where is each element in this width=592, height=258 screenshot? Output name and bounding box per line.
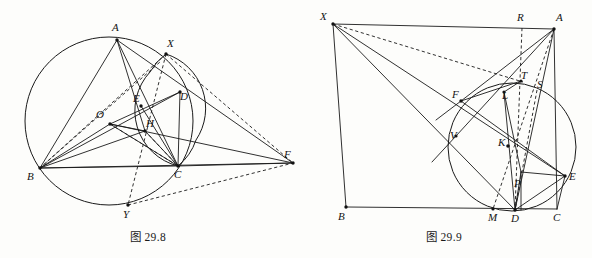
segment-yf-dashed: [128, 163, 293, 205]
vertex-dot-b: [38, 166, 41, 169]
point-label-x: X: [166, 37, 175, 49]
figure-29-8-caption: 图 29.8: [0, 228, 296, 244]
point-label-d: D: [179, 90, 188, 102]
point-label-a: A: [555, 11, 563, 23]
point-label-d: D: [510, 212, 519, 224]
vertex-dot-a: [552, 27, 555, 30]
point-label-y: Y: [123, 208, 131, 220]
vertex-dot-e: [139, 104, 142, 107]
figure-29-9: X R A T S L F V K P E B M D C 图 29.9: [296, 0, 592, 258]
segment-ob: [40, 124, 110, 168]
vertex-dot-b: [344, 205, 347, 208]
segment-am-dashed: [493, 29, 554, 209]
point-label-l: L: [501, 89, 508, 101]
vertex-dot-y: [126, 203, 129, 206]
vertex-dot-o: [108, 122, 111, 125]
point-label-m: M: [487, 211, 498, 223]
figure-29-8-canvas: A X D E O H B C F Y: [0, 0, 296, 258]
point-label-x: X: [319, 10, 328, 22]
segment-f-ext: [436, 101, 461, 120]
point-label-f: F: [283, 148, 291, 160]
segment-ec: [141, 106, 178, 166]
point-label-t: T: [521, 69, 528, 81]
point-label-s: S: [537, 78, 543, 90]
vertex-dot-f: [291, 161, 294, 164]
point-label-k: K: [497, 136, 506, 148]
vertex-dot-e: [563, 174, 566, 177]
point-label-e: E: [132, 92, 140, 104]
segment-bd: [40, 92, 180, 168]
segment-lp: [504, 92, 521, 172]
vertex-dot-h: [143, 129, 146, 132]
vertex-dot-k: [506, 144, 510, 148]
segment-bc-base: [346, 207, 557, 209]
point-label-h: H: [145, 117, 155, 129]
segment-xa: [333, 24, 554, 29]
vertex-dot-x: [331, 22, 334, 25]
point-label-f: F: [451, 88, 459, 100]
segment-xe: [333, 24, 565, 176]
segment-bh: [40, 131, 145, 168]
segment-sd-dashed: [515, 90, 537, 210]
segment-dc: [178, 92, 180, 166]
figure-29-9-caption: 图 29.9: [296, 228, 592, 244]
segment-ld: [504, 92, 515, 210]
point-label-c: C: [174, 168, 182, 180]
point-label-r: R: [516, 11, 524, 23]
point-label-b: B: [27, 170, 34, 182]
point-label-o: O: [96, 108, 104, 120]
point-label-p: P: [513, 177, 521, 189]
figure-29-8: A X D E O H B C F Y 图 29.8: [0, 0, 296, 258]
point-label-c: C: [553, 211, 561, 223]
circumcircle-abc: [25, 37, 193, 205]
point-label-b: B: [338, 210, 345, 222]
segment-fe: [461, 101, 565, 176]
point-label-e: E: [568, 170, 576, 182]
segment-xf-dashed: [166, 54, 293, 163]
segment-xb: [333, 24, 346, 207]
figure-29-9-canvas: X R A T S L F V K P E B M D C: [296, 0, 592, 258]
figure-page: A X D E O H B C F Y 图 29.8: [0, 0, 592, 258]
vertex-dot-x: [164, 52, 167, 55]
point-label-a: A: [111, 21, 119, 33]
vertex-dot-f: [459, 99, 462, 102]
vertex-dot-a: [115, 38, 118, 41]
segment-pe: [521, 172, 565, 176]
